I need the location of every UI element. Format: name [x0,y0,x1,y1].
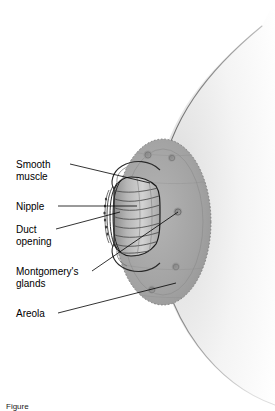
figure-caption: Figure [6,402,29,411]
label-duct-opening: Duct opening [16,224,52,247]
label-areola: Areola [16,308,45,320]
montgomery-gland [172,263,181,272]
label-nipple: Nipple [16,201,44,213]
label-montgomerys-glands: Montgomery's glands [16,266,79,289]
montgomery-gland [143,150,152,159]
label-smooth-muscle: Smooth muscle [16,159,50,182]
montgomery-gland [168,154,176,162]
